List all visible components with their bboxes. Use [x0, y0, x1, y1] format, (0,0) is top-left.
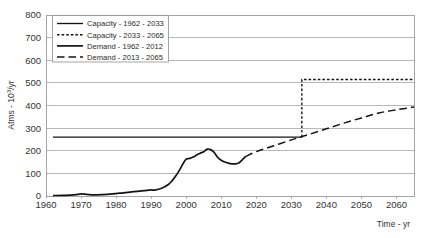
y-tick-label: 200: [25, 145, 41, 156]
svg-text:Atms - 103/yr: Atms - 103/yr: [5, 80, 17, 129]
y-tick-label: 700: [25, 32, 41, 43]
chart-legend: Capacity - 1962 - 2033Capacity - 2033 - …: [53, 16, 169, 63]
chart-container: 8007006005004003002001000 19601970198019…: [0, 0, 425, 238]
x-tick-label: 2040: [316, 199, 337, 210]
x-tick-label: 2010: [211, 199, 232, 210]
x-tick-label: 1960: [35, 199, 56, 210]
x-tick-label: 1990: [141, 199, 162, 210]
x-tick-label: 2020: [246, 199, 267, 210]
x-axis-tick-labels: 1960197019801990200020102020203020402050…: [35, 196, 407, 210]
y-axis-title-tail: /yr: [6, 80, 16, 90]
x-axis-title: Time - yr: [377, 219, 410, 229]
legend-label: Capacity - 1962 - 2033: [87, 19, 164, 28]
data-series-layer: [53, 79, 414, 195]
series-line-long-dash: [246, 107, 414, 156]
y-axis-title: Atms - 103/yr: [5, 80, 17, 129]
y-tick-label: 600: [25, 55, 41, 66]
y-tick-label: 300: [25, 123, 41, 134]
x-tick-label: 1980: [106, 199, 127, 210]
y-axis-title-main: Atms - 10: [6, 93, 16, 130]
y-tick-label: 800: [25, 9, 41, 20]
legend-label: Demand - 1962 - 2012: [87, 42, 163, 51]
x-tick-label: 2050: [351, 199, 372, 210]
x-tick-label: 1970: [70, 199, 91, 210]
x-tick-label: 2030: [281, 199, 302, 210]
x-tick-label: 2000: [176, 199, 197, 210]
y-axis-tick-labels: 8007006005004003002001000: [25, 9, 41, 201]
y-tick-label: 500: [25, 77, 41, 88]
series-line-short-dash: [302, 79, 414, 137]
line-chart: 8007006005004003002001000 19601970198019…: [0, 0, 425, 238]
y-tick-label: 100: [25, 168, 41, 179]
y-tick-label: 400: [25, 100, 41, 111]
x-tick-label: 2060: [386, 199, 407, 210]
legend-label: Demand - 2013 - 2065: [87, 53, 163, 62]
series-line-solid-thick: [53, 149, 246, 196]
legend-label: Capacity - 2033 - 2065: [87, 31, 164, 40]
